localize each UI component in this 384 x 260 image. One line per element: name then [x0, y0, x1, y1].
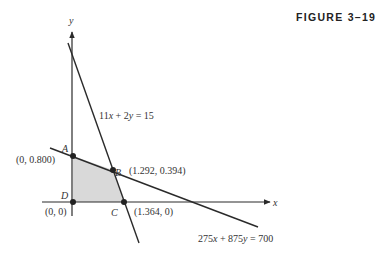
point-c-coords: (1.364, 0) — [134, 206, 173, 218]
point-a-dot — [70, 153, 76, 159]
point-c-label: C — [111, 207, 118, 218]
point-d-label: D — [60, 190, 69, 201]
point-d-dot — [70, 199, 76, 205]
equation-label-1: 11x + 2y = 15 — [99, 110, 154, 121]
point-d-coords: (0, 0) — [45, 206, 67, 218]
point-b-label: B — [115, 167, 121, 178]
lp-graph: y x 11x + 2y = 15 275x + 875y = 700 A B … — [0, 0, 384, 260]
point-b-coords: (1.292, 0.394) — [129, 165, 186, 177]
point-a-label: A — [61, 143, 69, 154]
x-axis-label: x — [272, 197, 278, 208]
point-c-dot — [121, 199, 127, 205]
constraint-line-steep — [68, 43, 139, 243]
y-axis-label: y — [68, 15, 74, 26]
equation-label-2: 275x + 875y = 700 — [198, 233, 273, 244]
point-a-coords: (0, 0.800) — [16, 154, 55, 166]
